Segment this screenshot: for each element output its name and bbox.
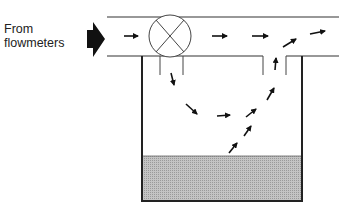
valve-icon [149,15,191,57]
flow-diagram [0,0,354,215]
tank-liquid [143,156,301,200]
valve-outlet [160,56,183,75]
vent-chimney [263,56,286,75]
inlet-arrow-icon [87,22,105,57]
